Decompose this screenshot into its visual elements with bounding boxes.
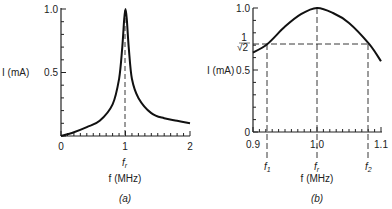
caption-a: (a) bbox=[119, 193, 131, 204]
curve-a bbox=[61, 9, 190, 136]
f2-label: f2 bbox=[365, 161, 372, 173]
xtick-0-a: 0 bbox=[58, 141, 64, 152]
xtick-1.1-b: 1.1 bbox=[374, 139, 388, 150]
xtick-1.0-b: 1.0 bbox=[310, 139, 324, 150]
ytick-1.0-a: 1.0 bbox=[44, 4, 58, 15]
xlabel-a: f (MHz) bbox=[109, 173, 142, 184]
fr-label-b: fr bbox=[314, 161, 320, 173]
xtick-1-a: 1 bbox=[122, 141, 128, 152]
xtick-0.9-b: 0.9 bbox=[246, 139, 260, 150]
panel-a: 1.0 0.5 I (mA) 0 1 2 fr f (MHz) (a) bbox=[2, 4, 193, 204]
ytick-0-b: 0 bbox=[244, 127, 250, 138]
half-power-tick-label: 1 √2 bbox=[237, 32, 250, 53]
ytick-0.5-a: 0.5 bbox=[44, 67, 58, 78]
resonance-figure: 1.0 0.5 I (mA) 0 1 2 fr f (MHz) (a) 1.0 … bbox=[0, 0, 392, 209]
ytick-1.0-b: 1.0 bbox=[236, 3, 250, 14]
xtick-2-a: 2 bbox=[187, 141, 193, 152]
f1-label: f1 bbox=[264, 161, 271, 173]
svg-text:√2: √2 bbox=[237, 42, 248, 53]
ylabel-a: I (mA) bbox=[2, 67, 29, 78]
x-ticks-a bbox=[61, 131, 190, 136]
fr-label-a: fr bbox=[122, 157, 128, 169]
panel-b: 1.0 0.5 0 1 √2 I (mA) 0.9 1.0 1.1 f1 fr … bbox=[207, 3, 388, 204]
ytick-0.5-b: 0.5 bbox=[236, 65, 250, 76]
caption-b: (b) bbox=[311, 193, 323, 204]
y-ticks-b bbox=[253, 8, 258, 132]
ylabel-b: I (mA) bbox=[207, 65, 234, 76]
y-ticks-a bbox=[61, 9, 66, 136]
xlabel-b: f (MHz) bbox=[301, 173, 334, 184]
